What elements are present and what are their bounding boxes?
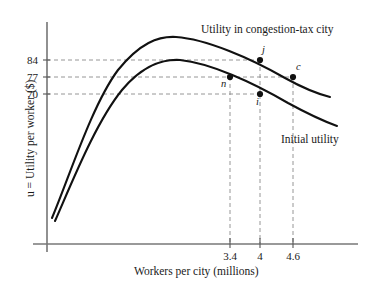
data-point-j [257,57,263,63]
curve-label-congestion-tax: Utility in congestion-tax city [201,24,334,36]
y-axis-title: u = Utility per worker ($) [25,80,37,197]
x-axis-title: Workers per city (millions) [134,266,259,278]
x-tick-label-4-6: 4.6 [276,251,310,262]
point-label-n: n [221,79,226,90]
point-label-c: c [296,62,301,73]
data-point-n [227,74,233,80]
curve-label-initial-utility: Initial utility [281,134,339,146]
chart-figure: 84 77 70 3.4 4 4.6 Workers per city (mil… [0,0,374,285]
x-tick-label-4: 4 [243,251,277,262]
x-tick-label-3-4: 3.4 [213,251,247,262]
y-tick-label-84: 84 [16,55,38,66]
data-point-c [290,74,296,80]
curve-congestion-tax [52,37,330,218]
point-label-j: j [262,45,265,56]
point-label-i: i [256,97,259,108]
